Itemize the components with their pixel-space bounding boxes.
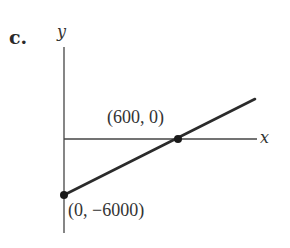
point-y-intercept [60, 191, 68, 199]
y-axis-label: y [57, 22, 66, 41]
y-intercept-label: (0, −6000) [68, 200, 144, 221]
x-axis-label: x [260, 128, 269, 147]
part-label: c. [9, 26, 27, 48]
line-graph-figure: c. y x (600, 0) (0, −6000) [0, 0, 290, 248]
point-x-intercept [174, 135, 182, 143]
x-intercept-label: (600, 0) [107, 107, 164, 128]
